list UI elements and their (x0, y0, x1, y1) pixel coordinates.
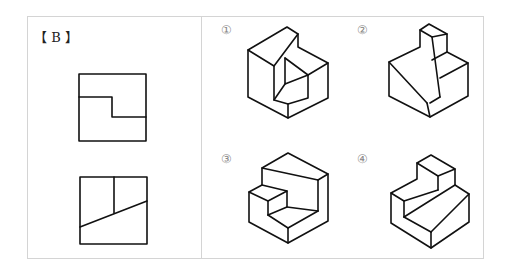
option-3-drawing[interactable] (249, 153, 328, 243)
top-view-drawing (79, 74, 146, 141)
option-2-drawing[interactable] (389, 24, 468, 117)
option-4-drawing[interactable] (391, 155, 469, 248)
front-view-drawing (80, 177, 147, 244)
drawings (0, 0, 506, 278)
option-1-drawing[interactable] (248, 27, 328, 118)
